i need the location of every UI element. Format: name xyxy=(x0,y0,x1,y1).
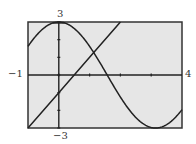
x-min-label: −1 xyxy=(8,69,23,79)
y-min-label: −3 xyxy=(53,131,68,141)
y-max-label: 3 xyxy=(57,9,63,19)
graph-window xyxy=(0,0,196,144)
x-max-label: 4 xyxy=(185,69,191,79)
